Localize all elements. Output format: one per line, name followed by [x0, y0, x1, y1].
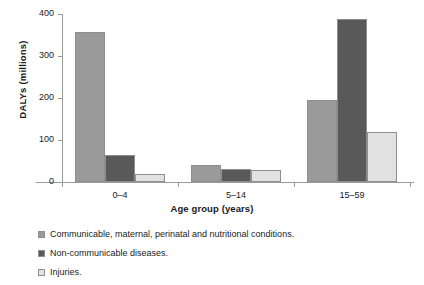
- legend-label: Communicable, maternal, perinatal and nu…: [50, 229, 294, 239]
- y-tick: 400: [0, 14, 62, 15]
- bar: [191, 165, 221, 182]
- legend-swatch-icon: [38, 269, 45, 276]
- y-tick: 100: [0, 140, 62, 141]
- legend-item: Injuries.: [38, 264, 418, 280]
- y-tick: 0: [0, 182, 62, 183]
- x-tick-mark: [178, 182, 179, 187]
- y-tick-label: 400: [39, 8, 54, 18]
- x-tick-mark: [62, 182, 63, 187]
- y-tick-label: 300: [39, 50, 54, 60]
- chart-figure: DALYs (millions) 0100200300400 0–45–1415…: [0, 0, 424, 285]
- legend-swatch-icon: [38, 231, 45, 238]
- y-axis-title: DALYs (millions): [17, 20, 28, 140]
- x-tick-mark: [410, 182, 411, 187]
- bar-group: [307, 14, 397, 182]
- x-tick-label: 5–14: [178, 190, 294, 200]
- bar: [105, 155, 135, 182]
- bar: [75, 32, 105, 182]
- bar: [221, 169, 251, 182]
- y-tick-label: 100: [39, 134, 54, 144]
- y-tick-label: 0: [49, 176, 54, 186]
- plot-area: [62, 14, 410, 182]
- legend-item: Communicable, maternal, perinatal and nu…: [38, 226, 418, 242]
- y-tick-label: 200: [39, 92, 54, 102]
- x-tick-label: 0–4: [62, 190, 178, 200]
- y-tick: 300: [0, 56, 62, 57]
- legend-label: Injuries.: [50, 267, 82, 277]
- legend-swatch-icon: [38, 250, 45, 257]
- legend-item: Non-communicable diseases.: [38, 245, 418, 261]
- bar: [367, 132, 397, 182]
- x-tick-label: 15–59: [294, 190, 410, 200]
- bar: [337, 19, 367, 182]
- x-axis-line: [36, 182, 414, 183]
- bar-group: [191, 14, 281, 182]
- x-tick-mark: [294, 182, 295, 187]
- chart-legend: Communicable, maternal, perinatal and nu…: [38, 226, 418, 283]
- x-axis-title: Age group (years): [0, 203, 424, 214]
- bar: [135, 174, 165, 182]
- bar-group: [75, 14, 165, 182]
- bar: [307, 100, 337, 182]
- bar: [251, 170, 281, 182]
- y-tick: 200: [0, 98, 62, 99]
- legend-label: Non-communicable diseases.: [50, 248, 168, 258]
